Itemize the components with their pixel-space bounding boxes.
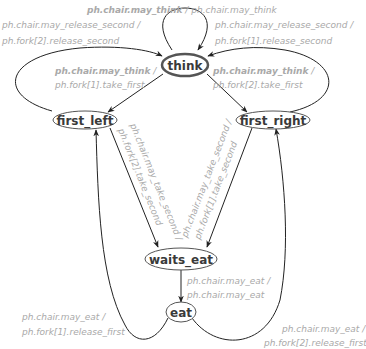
state-first-left[interactable]: first_left [53, 111, 117, 129]
label-first-left-to-think-action: ph.fork[2].release_second [1, 36, 119, 46]
label-eat-to-first-right-action: ph.fork[2].release_first [263, 338, 366, 348]
label-eat-to-first-left-guard: ph.chair.may_eat / [21, 312, 106, 322]
state-first-left-label: first_left [57, 114, 114, 129]
label-think-to-first-left-guard: ph.chair.may_think / [54, 66, 157, 76]
label-eat-to-first-left-action: ph.fork[1].release_first [21, 327, 125, 337]
state-first-right-label: first_right [240, 114, 307, 129]
label-eat-to-first-right-guard: ph.chair.may_eat / [281, 324, 366, 334]
state-eat[interactable]: eat [166, 302, 196, 322]
label-first-left-to-think-guard: ph.chair.may_release_second / [1, 20, 141, 30]
label-first-right-to-think-guard: ph.chair.may_release_second / [214, 20, 354, 30]
label-waits-eat-to-eat-guard: ph.chair.may_eat / [186, 276, 271, 286]
state-think[interactable]: think [162, 54, 208, 76]
state-waits-eat-label: waits_eat [149, 253, 213, 268]
label-first-right-to-think-action: ph.fork[1].release_second [214, 36, 332, 46]
label-think-to-first-left-action: ph.fork[1].take_first [54, 80, 145, 90]
label-think-to-first-right-action: ph.fork[2].take_first [212, 80, 303, 90]
state-diagram: think first_left first_right waits_eat e… [0, 0, 366, 349]
label-think-to-first-right-guard: ph.chair.may_think / [212, 66, 315, 76]
state-waits-eat[interactable]: waits_eat [145, 248, 217, 270]
label-think-self: ph.chair.may_think / ph.chair.may_think [86, 5, 277, 15]
edge-eat-to-first-right [192, 129, 286, 340]
state-first-right[interactable]: first_right [236, 111, 310, 129]
label-waits-eat-to-eat-action: ph.chair.may_eat [186, 290, 265, 300]
state-eat-label: eat [170, 306, 192, 320]
state-think-label: think [168, 59, 204, 73]
